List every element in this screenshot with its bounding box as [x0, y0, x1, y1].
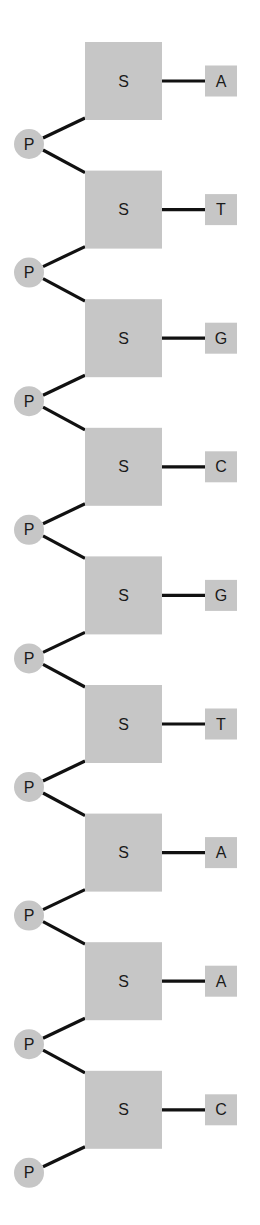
phosphate-label: P	[24, 393, 35, 410]
sugar-label: S	[118, 587, 129, 604]
nucleotide: SA	[85, 42, 237, 120]
base-label: T	[216, 716, 226, 733]
sugar-phosphate-bond	[43, 632, 85, 652]
sugar-label: S	[118, 73, 129, 90]
base-label: G	[215, 587, 227, 604]
base-label: A	[216, 73, 227, 90]
phosphate-label: P	[24, 264, 35, 281]
base-label: C	[215, 458, 227, 475]
sugar-phosphate-bond	[43, 1147, 85, 1167]
phosphate: P	[14, 129, 44, 159]
phosphate-sugar-bond	[43, 922, 85, 945]
sugar-label: S	[118, 330, 129, 347]
phosphate: P	[14, 1029, 44, 1059]
sugar-label: S	[118, 844, 129, 861]
base-label: A	[216, 844, 227, 861]
phosphate-sugar-bond	[43, 664, 85, 687]
phosphate-sugar-bond	[43, 1050, 85, 1073]
nucleotide: SG	[85, 556, 237, 634]
phosphate: P	[14, 901, 44, 931]
sugar-phosphate-bond	[43, 118, 85, 138]
phosphate-sugar-bond	[43, 407, 85, 430]
sugar-phosphate-bond	[43, 375, 85, 395]
dna-strand-diagram: SAPSTPSGPSCPSGPSTPSAPSAPSCP	[0, 0, 260, 1225]
phosphate-label: P	[24, 1164, 35, 1181]
sugar-phosphate-bond	[43, 1018, 85, 1038]
base-label: C	[215, 1101, 227, 1118]
nucleotide: SG	[85, 299, 237, 377]
phosphate-label: P	[24, 907, 35, 924]
nucleotide: SC	[85, 1071, 237, 1149]
sugar-label: S	[118, 1101, 129, 1118]
phosphate-sugar-bond	[43, 150, 85, 173]
phosphate: P	[14, 515, 44, 545]
nucleotide: SC	[85, 428, 237, 506]
base-label: A	[216, 973, 227, 990]
sugar-phosphate-bond	[43, 761, 85, 781]
phosphate-label: P	[24, 779, 35, 796]
sugar-phosphate-bond	[43, 504, 85, 524]
phosphate: P	[14, 643, 44, 673]
nucleotide: SA	[85, 814, 237, 892]
sugar-label: S	[118, 716, 129, 733]
phosphate: P	[14, 386, 44, 416]
sugar-phosphate-bond	[43, 247, 85, 267]
nucleotide: ST	[85, 685, 237, 763]
nucleotide: ST	[85, 171, 237, 249]
phosphate: P	[14, 1158, 44, 1188]
phosphate-label: P	[24, 1036, 35, 1053]
phosphate-sugar-bond	[43, 536, 85, 559]
phosphate-sugar-bond	[43, 279, 85, 302]
sugar-label: S	[118, 458, 129, 475]
nucleotide: SA	[85, 942, 237, 1020]
phosphate: P	[14, 258, 44, 288]
sugar-label: S	[118, 201, 129, 218]
phosphate-label: P	[24, 650, 35, 667]
phosphate-label: P	[24, 136, 35, 153]
sugar-phosphate-bond	[43, 890, 85, 910]
base-label: G	[215, 330, 227, 347]
phosphate-sugar-bond	[43, 793, 85, 816]
phosphate-label: P	[24, 521, 35, 538]
sugar-label: S	[118, 973, 129, 990]
base-label: T	[216, 201, 226, 218]
phosphate: P	[14, 772, 44, 802]
